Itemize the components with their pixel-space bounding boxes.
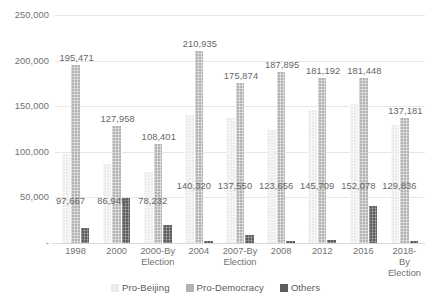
legend-item[interactable]: Pro-Beijing [111,283,170,293]
data-label-pro-beijing: 86,949 [97,196,126,206]
data-label-pro-beijing: 145,709 [300,181,334,191]
data-label-pro-beijing: 97,667 [56,196,85,206]
bars-row [343,15,384,243]
bar-pro-democracy [112,126,121,243]
bar-others [81,228,90,243]
x-tick-label: 1998 [65,246,86,257]
bar-pro-beijing [144,172,153,243]
legend-label: Others [291,283,320,293]
bar-chart: -50,000100,000150,000200,000250,000 195,… [0,0,431,306]
x-axis: 199820002000-By Election20042007-By Elec… [55,243,425,281]
legend-item[interactable]: Pro-Democracy [186,283,264,293]
bar-group [96,15,137,243]
bar-others [163,225,172,243]
x-tick-label: 2018-By Election [388,246,421,279]
y-tick-label: 100,000 [15,147,49,157]
bar-group [219,15,260,243]
data-label-pro-beijing: 78,232 [138,196,167,206]
bar-group [302,15,343,243]
y-axis: -50,000100,000150,000200,000250,000 [0,0,52,306]
x-tick-label: 2000-By Election [140,246,175,268]
data-label-pro-beijing: 137,550 [218,181,252,191]
data-label-pro-beijing: 129,836 [382,181,416,191]
legend-swatch-icon [111,284,119,292]
bar-pro-democracy [71,65,80,243]
data-label-pro-democracy: 187,895 [265,60,299,70]
data-label-pro-democracy: 181,448 [347,66,381,76]
bar-group [55,15,96,243]
legend-label: Pro-Beijing [122,283,170,293]
bar-pro-democracy [195,51,204,243]
data-label-pro-democracy: 195,471 [59,53,93,63]
y-tick-label: 50,000 [20,192,49,202]
data-label-pro-beijing: 140,320 [177,181,211,191]
x-tick-label: 2016 [353,246,374,257]
legend-swatch-icon [280,284,288,292]
bar-pro-beijing [350,104,359,243]
bar-pro-democracy [318,78,327,243]
y-tick-label: 250,000 [15,10,49,20]
x-tick-label: 2000 [106,246,127,257]
y-tick-label: 150,000 [15,101,49,111]
x-tick-label: 2008 [271,246,292,257]
legend-label: Pro-Democracy [197,283,264,293]
x-tick-label: 2012 [312,246,333,257]
bars-row [261,15,302,243]
x-tick-label: 2004 [189,246,210,257]
plot-area: 195,47197,667127,95886,949108,40178,2322… [55,15,425,243]
bar-pro-democracy [236,83,245,243]
bar-others [369,206,378,243]
bars-row [96,15,137,243]
bar-group [384,15,425,243]
data-label-pro-beijing: 152,078 [341,181,375,191]
bar-others [245,235,254,243]
bars-row [219,15,260,243]
data-label-pro-democracy: 108,401 [142,132,176,142]
data-label-pro-democracy: 210,935 [183,39,217,49]
bar-group [343,15,384,243]
bars-row [178,15,219,243]
y-tick-label: 200,000 [15,56,49,66]
bar-pro-democracy [154,144,163,243]
bars-row [302,15,343,243]
y-tick-label: - [46,238,49,248]
bars-row [55,15,96,243]
bar-group [261,15,302,243]
bar-pro-beijing [185,115,194,243]
bars-row [137,15,178,243]
data-label-pro-democracy: 137,181 [388,106,422,116]
data-label-pro-democracy: 181,192 [306,66,340,76]
legend-item[interactable]: Others [280,283,320,293]
legend-swatch-icon [186,284,194,292]
bar-pro-beijing [308,110,317,243]
bar-group [137,15,178,243]
x-tick-label: 2007-By Election [223,246,258,268]
chart-legend: Pro-BeijingPro-DemocracyOthers [0,283,431,293]
x-axis-line [52,243,425,244]
data-label-pro-democracy: 175,874 [224,71,258,81]
bar-pro-democracy [277,72,286,243]
data-label-pro-democracy: 127,958 [101,114,135,124]
bar-pro-democracy [359,78,368,243]
bars-row [384,15,425,243]
data-label-pro-beijing: 123,656 [259,181,293,191]
bar-group [178,15,219,243]
